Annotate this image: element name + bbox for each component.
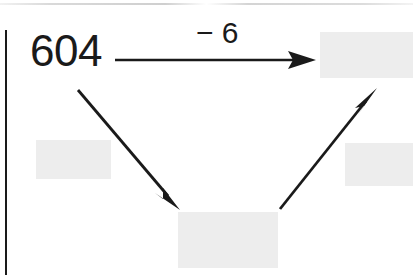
arrow-down-right-icon (78, 90, 180, 210)
arrow-right-icon (115, 51, 316, 69)
arrow-layer (0, 0, 413, 275)
arrow-up-right-icon (280, 88, 377, 209)
worksheet-page: 604 − 6 (0, 0, 413, 275)
